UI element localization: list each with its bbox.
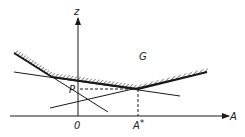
- envelope-hatching: [14, 49, 208, 89]
- z-axis-label: z: [73, 6, 80, 17]
- origin-label: 0: [74, 120, 80, 131]
- a-axis-label: A: [229, 111, 237, 122]
- a-star-label: A*: [132, 118, 145, 131]
- region-g-label: G: [139, 51, 147, 62]
- diagram-canvas: z A 0 G P A*: [0, 0, 245, 137]
- a-star-main: A: [132, 120, 140, 131]
- point-p-label: P: [69, 84, 76, 95]
- a-star-superscript: *: [140, 118, 145, 128]
